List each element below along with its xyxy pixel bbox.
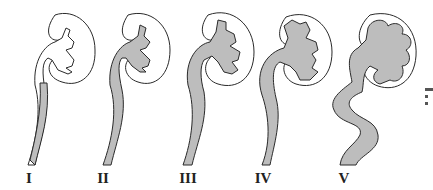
grade-label-4: IV: [255, 170, 272, 187]
grade-2-illustration: [103, 13, 170, 165]
grade-label-3: III: [179, 170, 197, 187]
grade-label-1: I: [26, 170, 32, 187]
grade-label-2: II: [97, 170, 109, 187]
grade-label-5: V: [339, 170, 350, 187]
grade-3-illustration: [183, 13, 254, 165]
grade-1-illustration: [28, 13, 95, 165]
grade-4-illustration: [260, 15, 332, 165]
reflux-grades-diagram: [0, 0, 433, 190]
cropped-caption-fragment: [425, 88, 433, 118]
grade-5-illustration: [333, 14, 416, 165]
